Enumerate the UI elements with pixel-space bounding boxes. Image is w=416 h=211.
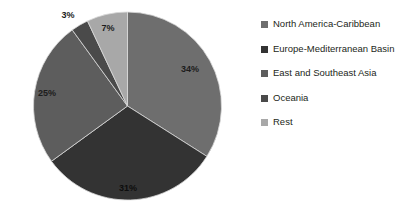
legend-swatch-icon [261, 119, 268, 126]
legend-swatch-icon [261, 95, 268, 102]
legend-item-label: North America-Caribbean [273, 18, 380, 30]
slice-label-oceania: 3% [61, 10, 74, 20]
legend-item-label: Rest [273, 116, 293, 128]
legend: North America-CaribbeanEurope-Mediterran… [261, 18, 413, 141]
pie-slice-group [33, 12, 221, 200]
legend-item[interactable]: Europe-Mediterranean Basin [261, 43, 413, 55]
legend-item[interactable]: North America-Caribbean [261, 18, 413, 30]
slice-label-north-america-caribbean: 34% [181, 64, 199, 74]
slice-label-east-and-southeast-asia: 25% [38, 88, 56, 98]
legend-swatch-icon [261, 21, 268, 28]
legend-item-label: East and Southeast Asia [273, 67, 377, 79]
slice-label-europe-mediterranean-basin: 31% [119, 183, 137, 193]
legend-swatch-icon [261, 70, 268, 77]
legend-item[interactable]: Rest [261, 116, 413, 128]
legend-item-label: Europe-Mediterranean Basin [273, 43, 394, 55]
slice-label-rest: 7% [101, 23, 114, 33]
legend-swatch-icon [261, 46, 268, 53]
legend-item[interactable]: East and Southeast Asia [261, 67, 413, 79]
pie-svg [0, 0, 250, 211]
pie-plot-area: 34% 31% 25% 3% 7% [0, 0, 250, 211]
legend-item[interactable]: Oceania [261, 92, 413, 104]
legend-item-label: Oceania [273, 92, 308, 104]
pie-chart-figure: 34% 31% 25% 3% 7% North America-Caribbea… [0, 0, 416, 211]
